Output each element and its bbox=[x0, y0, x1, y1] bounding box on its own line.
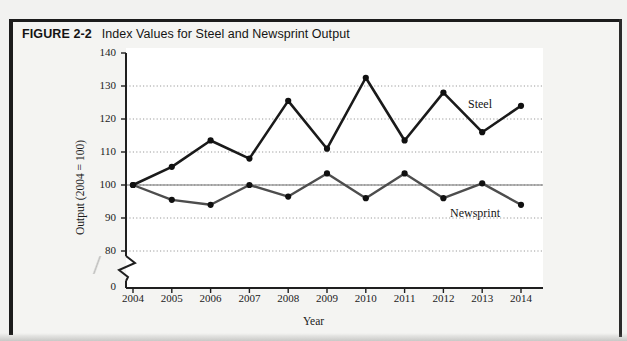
x-axis-tick-2012: 2012 bbox=[423, 292, 463, 304]
y-axis-tick-zero: 0 bbox=[82, 280, 116, 292]
y-axis-tick-120: 120 bbox=[82, 112, 116, 124]
x-axis-tick-2006: 2006 bbox=[191, 292, 231, 304]
x-axis-tick-2013: 2013 bbox=[462, 292, 502, 304]
x-axis-tick-2005: 2005 bbox=[152, 292, 192, 304]
x-axis-tick-2007: 2007 bbox=[229, 292, 269, 304]
series-label-newsprint: Newsprint bbox=[450, 206, 500, 221]
figure-container: FIGURE 2-2 Index Values for Steel and Ne… bbox=[0, 0, 627, 341]
x-axis-title: Year bbox=[0, 315, 627, 327]
x-axis-tick-2011: 2011 bbox=[385, 292, 425, 304]
x-axis-tick-2010: 2010 bbox=[346, 292, 386, 304]
y-axis-tick-90: 90 bbox=[82, 211, 116, 223]
chart-plot-area: Output (2004 = 100) Year Steel Newsprint… bbox=[0, 0, 627, 341]
y-axis-tick-130: 130 bbox=[82, 79, 116, 91]
y-axis-tick-100: 100 bbox=[82, 178, 116, 190]
y-axis-tick-80: 80 bbox=[82, 244, 116, 256]
page-edge-shadow bbox=[0, 333, 627, 341]
x-axis-tick-2008: 2008 bbox=[268, 292, 308, 304]
x-axis-tick-2014: 2014 bbox=[501, 292, 541, 304]
series-label-steel: Steel bbox=[468, 97, 492, 112]
x-axis-tick-2009: 2009 bbox=[307, 292, 347, 304]
y-axis-tick-140: 140 bbox=[82, 46, 116, 58]
x-axis-tick-2004: 2004 bbox=[113, 292, 153, 304]
y-axis-tick-110: 110 bbox=[82, 145, 116, 157]
